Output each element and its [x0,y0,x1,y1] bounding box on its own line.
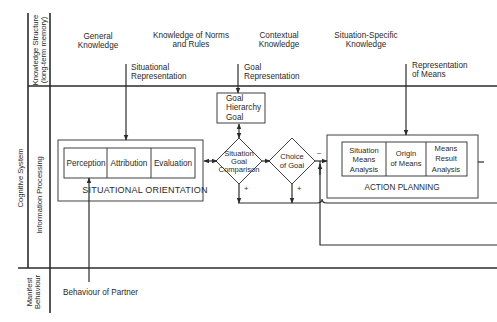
svg-text:of Goal: of Goal [280,161,305,170]
means-representation-label: Representation [412,61,468,70]
situation-means-analysis-cell: Situation [349,146,379,155]
means-result-analysis-cell: Means [435,144,458,153]
svg-text:Knowledge: Knowledge [78,41,119,50]
svg-text:of Means: of Means [412,70,446,79]
svg-text:Result: Result [435,154,457,163]
situational-orientation-box: Perception Attribution Evaluation SITUAT… [58,140,208,201]
norms-knowledge-label: Knowledge of Norms [153,31,229,40]
attribution-cell: Attribution [111,159,148,168]
situational-representation-label: Situational [131,63,169,72]
general-knowledge-label: General [83,32,112,41]
svg-text:Knowledge: Knowledge [346,40,387,49]
svg-text:Means: Means [353,155,376,164]
evaluation-cell: Evaluation [154,159,193,168]
behaviour-of-partner-label: Behaviour of Partner [63,288,138,297]
origin-of-means-cell: Origin [396,149,416,158]
feedback-line-upper [238,199,497,203]
svg-text:Representation: Representation [244,72,300,81]
svg-text:Analysis: Analysis [432,165,460,174]
cognitive-system-label: Cognitive System [16,148,25,207]
action-planning-title: ACTION PLANNING [364,183,439,192]
svg-text:Knowledge: Knowledge [259,40,300,49]
svg-text:of Means: of Means [390,159,421,168]
svg-text:Hierarchy: Hierarchy [226,103,262,112]
svg-text:Goal: Goal [226,94,243,103]
svg-text:and Rules: and Rules [173,40,210,49]
choice-of-goal-diamond: Choice of Goal [269,138,315,184]
svg-text:Representation: Representation [131,72,187,81]
action-planning-box: Situation Means Analysis Origin of Means… [327,135,478,198]
situation-goal-comparison-diamond: Situation Goal Comparison [216,138,262,184]
representations: Situational Representation Goal Represen… [126,61,468,140]
goal-hierarchy-box: Goal Hierarchy Goal [217,93,265,123]
situational-orientation-title: SITUATIONAL ORIENTATION [82,185,207,195]
svg-text:Analysis: Analysis [350,165,378,174]
manifest-behaviour-label-2: Behaviour [33,274,42,309]
minus-sign: – [317,148,322,157]
situation-specific-knowledge-label: Situation-Specific [334,31,397,40]
svg-text:Choice: Choice [280,152,304,161]
knowledge-structure-label-2: (long-term memory) [39,16,48,83]
goal-representation-label: Goal [244,63,261,72]
svg-text:+: + [244,184,249,193]
information-processing-label: Information Processing [35,156,44,234]
svg-text:+: + [297,184,302,193]
contextual-knowledge-label: Contextual [259,31,298,40]
svg-text:Comparison: Comparison [219,165,260,174]
svg-text:Goal: Goal [226,113,243,122]
perception-cell: Perception [66,159,106,168]
cognitive-system-diagram: Cognitive System Knowledge Structure (lo… [0,0,497,322]
knowledge-labels: General Knowledge Knowledge of Norms and… [78,31,398,50]
